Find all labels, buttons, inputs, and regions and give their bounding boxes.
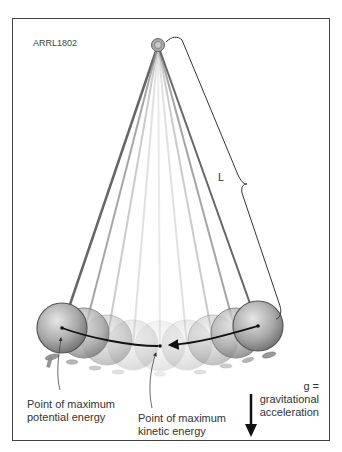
pivot-icon [152,39,165,52]
label-max-kinetic: Point of maximum kinetic energy [138,412,226,438]
pendulum-strings [62,45,258,346]
label-max-potential: Point of maximum potential energy [27,398,115,424]
label-gravity: g = gravitational acceleration [243,380,319,419]
length-label: L [218,171,224,184]
